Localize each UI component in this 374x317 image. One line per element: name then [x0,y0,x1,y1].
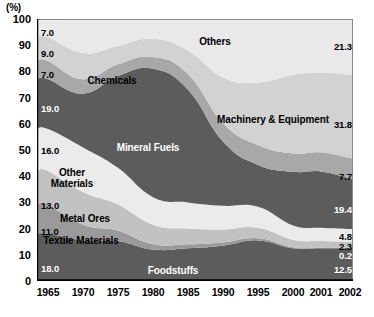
end-value-chemicals: 7.7 [339,171,352,182]
end-value-others: 21.3 [334,41,352,52]
y-tick-40: 40 [1,171,31,181]
end-value-textile-materials: 0.2 [339,250,352,261]
start-value-other-materials: 16.0 [41,145,59,156]
x-tick-2000: 2000 [282,286,305,298]
y-tick-100: 100 [1,14,31,24]
end-value-mineral-fuels: 19.4 [334,204,352,215]
x-tick-2002: 2002 [339,286,362,298]
end-value-foodstuffs: 12.5 [334,264,352,275]
series-label-chemicals: Chemicals [87,75,136,86]
start-value-others: 7.0 [41,27,54,38]
x-tick-2001: 2001 [310,286,333,298]
x-tick-1995: 1995 [247,286,270,298]
y-tick-70: 70 [1,93,31,103]
series-label-machinery: Machinery & Equipment [217,114,329,125]
y-tick-60: 60 [1,119,31,129]
series-label-mineral-fuels: Mineral Fuels [117,142,180,153]
y-tick-80: 80 [1,66,31,76]
x-tick-1965: 1965 [37,286,60,298]
x-tick-1980: 1980 [142,286,165,298]
y-tick-20: 20 [1,224,31,234]
series-label-other-materials-1: Other [59,167,85,178]
y-tick-90: 90 [1,40,31,50]
end-value-machinery: 31.8 [334,119,352,130]
y-axis-unit-label: (%) [6,2,21,13]
start-value-metal-ores: 13.0 [41,200,59,211]
series-label-other-materials-2: Materials [51,178,93,189]
x-tick-1990: 1990 [212,286,235,298]
start-value-chemicals: 7.0 [41,69,54,80]
start-value-textile-materials: 11.0 [41,226,59,237]
x-tick-1985: 1985 [177,286,200,298]
stacked-area-chart: (%) 100 90 80 70 60 50 40 30 20 10 0 196… [0,0,374,317]
series-label-metal-ores: Metal Ores [60,213,110,224]
series-label-others: Others [199,36,231,47]
start-value-mineral-fuels: 19.0 [41,103,59,114]
start-value-foodstuffs: 18.0 [41,263,59,274]
y-tick-50: 50 [1,145,31,155]
start-value-machinery: 9.0 [41,48,54,59]
series-label-foodstuffs: Foodstuffs [148,265,199,276]
x-tick-1970: 1970 [72,286,95,298]
y-tick-30: 30 [1,197,31,207]
y-tick-0: 0 [1,276,31,286]
x-tick-1975: 1975 [107,286,130,298]
y-tick-10: 10 [1,250,31,260]
